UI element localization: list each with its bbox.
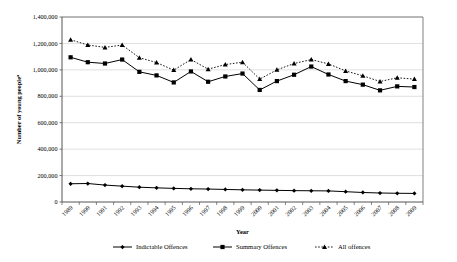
data-point <box>395 84 399 88</box>
x-axis-tick-label: 1995 <box>163 204 177 218</box>
x-axis-tick-label: 1993 <box>129 204 143 218</box>
x-axis-tick-label: 1989 <box>60 204 74 218</box>
x-axis: 1989199019911992199319941995199619971998… <box>60 202 423 217</box>
chart-container: 0200,000400,000600,000800,0001,000,0001,… <box>0 0 457 262</box>
x-axis-title: Year <box>236 228 249 235</box>
y-axis-tick-label: 800,000 <box>37 92 57 99</box>
data-point <box>120 57 124 61</box>
data-point <box>68 55 72 59</box>
y-axis-title: Number of young peoplea <box>15 74 23 144</box>
line-chart: 0200,000400,000600,000800,0001,000,0001,… <box>0 0 457 262</box>
y-axis-title-text: Number of young peoplea <box>15 74 23 144</box>
y-axis-tick-label: 400,000 <box>37 145 57 152</box>
data-point <box>154 73 158 77</box>
data-point <box>103 61 107 65</box>
y-axis-tick-label: 1,400,000 <box>33 13 58 20</box>
y-axis-tick-label: 0 <box>54 198 57 205</box>
data-point <box>275 79 279 83</box>
y-axis-tick-label: 200,000 <box>37 172 57 179</box>
data-point <box>292 73 296 77</box>
legend-item-all-offences[interactable]: All offences <box>315 243 371 250</box>
legend-item-indictable-offences[interactable]: Indictable Offences <box>113 243 188 250</box>
x-axis-tick-label: 2000 <box>249 204 263 218</box>
legend-marker <box>120 245 124 249</box>
x-axis-tick-label: 1998 <box>215 204 229 218</box>
data-point <box>412 85 416 89</box>
x-axis-tick-label: 1991 <box>94 204 108 218</box>
data-point <box>326 72 330 76</box>
legend-marker <box>220 245 224 249</box>
x-axis-tick-label: 1994 <box>146 204 160 218</box>
data-point <box>206 80 210 84</box>
x-axis-tick-label: 1999 <box>232 204 246 218</box>
y-axis: 0200,000400,000600,000800,0001,000,0001,… <box>33 13 62 205</box>
y-axis-title-superscript: a <box>15 74 20 77</box>
x-axis-tick-label: 1997 <box>198 204 212 218</box>
legend-item-summary-offences[interactable]: Summary Offences <box>213 243 287 250</box>
x-axis-tick-label: 2009 <box>404 204 418 218</box>
data-point <box>137 70 141 74</box>
data-point <box>172 80 176 84</box>
legend-label: Summary Offences <box>236 243 287 250</box>
plot-background <box>62 17 423 202</box>
legend-label: Indictable Offences <box>136 243 188 250</box>
data-point <box>344 79 348 83</box>
x-axis-tick-label: 2006 <box>352 204 366 218</box>
chart-legend: Indictable OffencesSummary OffencesAll o… <box>113 243 371 250</box>
data-point <box>189 69 193 73</box>
y-axis-tick-label: 1,200,000 <box>33 40 58 47</box>
x-axis-tick-label: 1990 <box>77 204 91 218</box>
data-point <box>361 83 365 87</box>
x-axis-tick-label: 2001 <box>266 204 280 218</box>
x-axis-tick-label: 2005 <box>335 204 349 218</box>
y-axis-tick-label: 600,000 <box>37 119 57 126</box>
x-axis-tick-label: 2003 <box>301 204 315 218</box>
x-axis-tick-label: 2004 <box>318 204 332 218</box>
data-point <box>240 71 244 75</box>
data-point <box>309 64 313 68</box>
data-point <box>378 88 382 92</box>
legend-label: All offences <box>338 243 371 250</box>
x-axis-tick-label: 1992 <box>112 204 126 218</box>
x-axis-tick-label: 2007 <box>370 204 384 218</box>
data-point <box>223 74 227 78</box>
y-axis-tick-label: 1,000,000 <box>33 66 58 73</box>
x-axis-tick-label: 2008 <box>387 204 401 218</box>
data-point <box>258 88 262 92</box>
x-axis-tick-label: 2002 <box>284 204 298 218</box>
data-point <box>86 60 90 64</box>
x-axis-tick-label: 1996 <box>180 204 194 218</box>
